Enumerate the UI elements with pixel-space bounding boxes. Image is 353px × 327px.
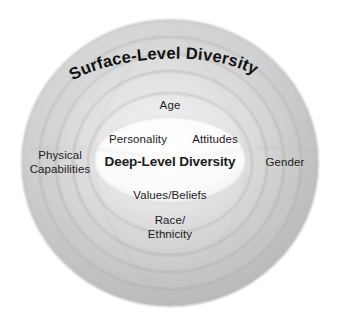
label-deep-level-diversity: Deep-Level Diversity — [85, 154, 255, 170]
label-attitudes: Attitudes — [176, 133, 254, 147]
label-physical-capabilities: Physical Capabilities — [20, 149, 100, 176]
label-gender: Gender — [252, 156, 318, 170]
label-age: Age — [120, 99, 220, 113]
label-personality: Personality — [92, 133, 184, 147]
label-values-beliefs: Values/Beliefs — [120, 189, 220, 203]
label-race-ethnicity: Race/ Ethnicity — [125, 214, 215, 241]
diagram-canvas: Surface-Level Diversity Age Personality … — [0, 0, 353, 327]
